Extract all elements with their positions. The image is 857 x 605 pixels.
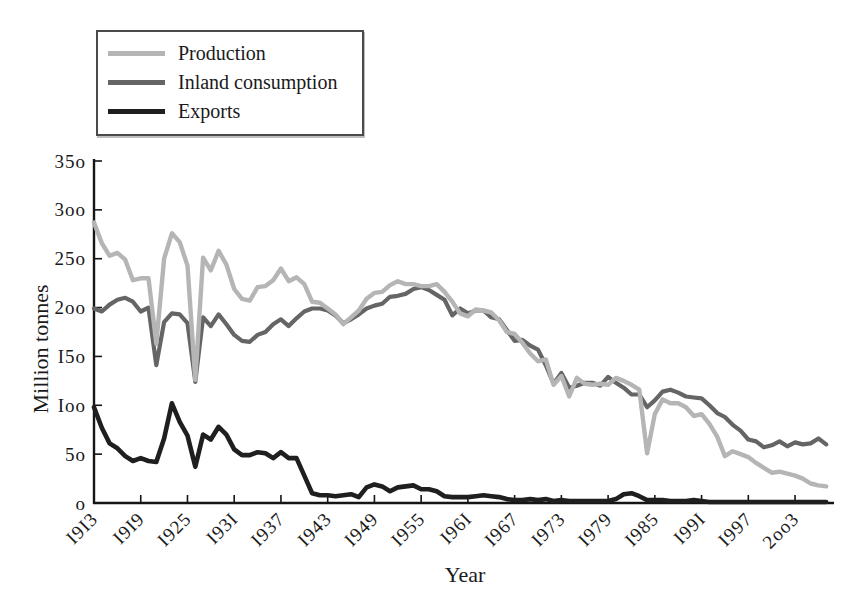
x-tick-label: I937	[246, 508, 288, 550]
y-tick-label: 2oo	[55, 297, 87, 318]
y-tick-label: 5o	[65, 444, 86, 465]
legend-item-production: Production	[108, 40, 354, 66]
x-tick-label: I96I	[436, 508, 476, 548]
x-tick-label: I925	[153, 508, 195, 550]
x-tick-label: I949	[340, 508, 382, 550]
legend-label-production: Production	[178, 42, 266, 65]
x-tick-label: I997	[714, 508, 756, 550]
legend-item-inland-consumption: Inland consumption	[108, 69, 354, 95]
y-tick-label: Ioo	[58, 395, 86, 416]
y-tick-label: 35o	[55, 151, 87, 172]
x-tick-label: I99I	[669, 508, 709, 548]
legend-line-inland-consumption	[108, 80, 165, 85]
legend-label-exports: Exports	[178, 100, 240, 123]
x-axis-title: Year	[400, 562, 530, 588]
legend-line-production	[108, 51, 165, 56]
y-tick-label: I5o	[58, 346, 86, 367]
legend-line-exports	[108, 109, 165, 114]
legend-item-exports: Exports	[108, 98, 354, 124]
line-production	[94, 223, 826, 487]
x-tick-label: I985	[620, 508, 662, 550]
legend: Production Inland consumption Exports	[96, 30, 364, 136]
legend-label-inland-consumption: Inland consumption	[178, 71, 337, 94]
x-tick-label: I979	[574, 508, 616, 550]
line-exports	[94, 403, 826, 502]
chart-figure: Production Inland consumption Exports o5…	[0, 0, 857, 605]
x-tick-label: I9I9	[109, 508, 149, 548]
x-tick-label: I93I	[202, 508, 242, 548]
x-tick-label: 2oo3	[758, 508, 803, 553]
x-tick-label: I9I3	[62, 508, 102, 548]
x-tick-label: I955	[387, 508, 429, 550]
y-tick-label: 25o	[55, 248, 87, 269]
x-tick-label: I967	[480, 508, 522, 550]
y-axis-title: Million tonnes	[28, 239, 54, 459]
x-tick-label: I943	[293, 508, 335, 550]
x-tick-label: I973	[527, 508, 569, 550]
y-tick-label: 3oo	[55, 199, 87, 220]
